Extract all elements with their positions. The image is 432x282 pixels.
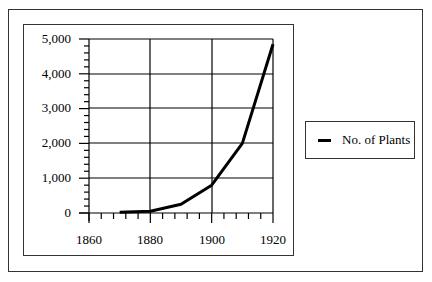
legend-label: No. of Plants [342,132,410,148]
x-tick-label: 1920 [253,232,293,248]
gridlines [89,39,273,213]
x-axis [79,213,273,223]
series-line-no-of-plants [120,44,273,212]
y-tick-label: 0 [21,205,71,221]
y-tick-label: 3,000 [21,100,71,116]
y-tick-label: 2,000 [21,135,71,151]
x-tick-label: 1880 [130,232,170,248]
x-tick-label: 1900 [192,232,232,248]
y-tick-label: 1,000 [21,170,71,186]
legend: No. of Plants [305,121,415,159]
legend-line-swatch-icon [318,139,331,142]
y-tick-label: 5,000 [21,31,71,47]
y-tick-label: 4,000 [21,66,71,82]
y-axis [79,39,89,221]
x-tick-label: 1860 [69,232,109,248]
